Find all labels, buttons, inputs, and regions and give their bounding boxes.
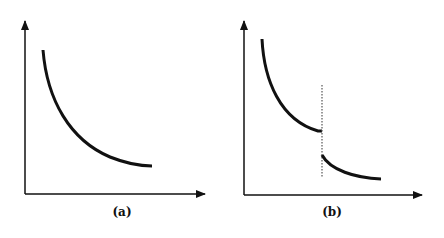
panel-a [25, 21, 205, 194]
panel-b [244, 21, 422, 195]
panel-b-curve-right [322, 155, 381, 179]
panel-b-curve-left [262, 39, 322, 131]
panel-a-curve [43, 50, 152, 166]
panel-a-label: (a) [112, 205, 131, 219]
figure-canvas [0, 0, 444, 238]
panel-b-label: (b) [322, 205, 342, 219]
